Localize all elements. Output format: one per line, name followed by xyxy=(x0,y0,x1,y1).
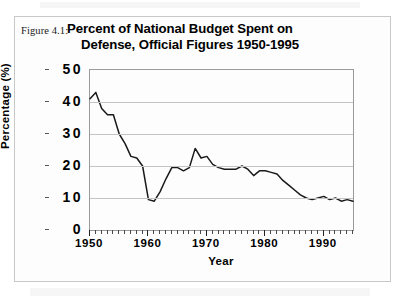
x-tick-minor-1978 xyxy=(253,230,254,234)
data-line xyxy=(90,92,353,201)
x-tick-minor-1971 xyxy=(212,230,213,234)
x-tick-major-1980 xyxy=(264,230,265,236)
x-axis-title: Year xyxy=(89,255,353,267)
scan-artifact-bottom xyxy=(30,288,370,296)
x-tick-major-1990 xyxy=(323,230,324,236)
x-tick-minor-1979 xyxy=(258,230,259,234)
series-line-defense-percentage xyxy=(90,70,353,230)
y-tick-mark-30 xyxy=(45,133,49,134)
x-tick-minor-1975 xyxy=(235,230,236,234)
x-tick-minor-1982 xyxy=(276,230,277,234)
x-tick-minor-1989 xyxy=(317,230,318,234)
x-tick-major-1950 xyxy=(89,230,90,236)
x-tick-minor-1968 xyxy=(194,230,195,234)
x-tick-minor-1952 xyxy=(101,230,102,234)
y-tick-mark-40 xyxy=(45,101,49,102)
x-tick-minor-1973 xyxy=(223,230,224,234)
x-tick-minor-1976 xyxy=(241,230,242,234)
x-tick-minor-1987 xyxy=(305,230,306,234)
y-tick-label-10: 10 xyxy=(49,189,83,205)
y-axis-title: Percentage (%) xyxy=(0,63,11,149)
figure-number-label: Figure 4.1: xyxy=(21,25,68,36)
plot-area xyxy=(89,69,354,231)
x-tick-minor-1983 xyxy=(282,230,283,234)
figure-frame: Figure 4.1: Percent of National Budget S… xyxy=(14,16,391,282)
x-tick-minor-1961 xyxy=(153,230,154,234)
y-tick-mark-50 xyxy=(45,69,49,70)
x-tick-minor-1977 xyxy=(247,230,248,234)
x-tick-label-1970: 1970 xyxy=(184,237,228,249)
x-tick-minor-1993 xyxy=(340,230,341,234)
y-tick-label-40: 40 xyxy=(49,93,83,109)
x-tick-minor-1955 xyxy=(118,230,119,234)
x-axis-tick-marks xyxy=(89,230,353,235)
y-tick-label-0: 0 xyxy=(49,221,83,237)
x-tick-minor-1988 xyxy=(311,230,312,234)
x-tick-major-1960 xyxy=(147,230,148,236)
x-tick-minor-1953 xyxy=(107,230,108,234)
x-tick-minor-1992 xyxy=(334,230,335,234)
x-tick-major-1970 xyxy=(206,230,207,236)
figure-screenshot: { "figure": { "number_label": "Figure 4.… xyxy=(0,0,405,303)
x-tick-minor-1972 xyxy=(218,230,219,234)
x-tick-minor-1967 xyxy=(188,230,189,234)
gridline-y-40 xyxy=(90,102,353,103)
x-tick-minor-1995 xyxy=(352,230,353,234)
y-tick-label-30: 30 xyxy=(49,125,83,141)
x-tick-minor-1969 xyxy=(200,230,201,234)
x-axis-tick-labels: 19501960197019801990 xyxy=(15,237,392,255)
x-tick-minor-1984 xyxy=(288,230,289,234)
x-tick-minor-1965 xyxy=(177,230,178,234)
x-tick-minor-1958 xyxy=(136,230,137,234)
chart-title: Percent of National Budget Spent on Defe… xyxy=(67,21,367,53)
x-tick-label-1990: 1990 xyxy=(301,237,345,249)
x-tick-label-1950: 1950 xyxy=(67,237,111,249)
x-tick-minor-1959 xyxy=(142,230,143,234)
x-tick-label-1960: 1960 xyxy=(125,237,169,249)
gridline-y-30 xyxy=(90,134,353,135)
x-tick-minor-1986 xyxy=(299,230,300,234)
x-tick-minor-1991 xyxy=(329,230,330,234)
x-tick-minor-1957 xyxy=(130,230,131,234)
chart-title-line-2: Defense, Official Figures 1950-1995 xyxy=(81,37,367,53)
x-tick-minor-1964 xyxy=(171,230,172,234)
x-tick-label-1980: 1980 xyxy=(242,237,286,249)
gridline-y-10 xyxy=(90,198,353,199)
x-tick-minor-1981 xyxy=(270,230,271,234)
gridline-y-20 xyxy=(90,166,353,167)
chart-title-line-1: Percent of National Budget Spent on xyxy=(67,21,367,37)
x-tick-minor-1956 xyxy=(124,230,125,234)
x-tick-minor-1954 xyxy=(112,230,113,234)
x-tick-minor-1963 xyxy=(165,230,166,234)
y-tick-mark-10 xyxy=(45,197,49,198)
x-tick-minor-1962 xyxy=(159,230,160,234)
x-tick-minor-1966 xyxy=(183,230,184,234)
x-tick-minor-1951 xyxy=(95,230,96,234)
y-axis-tick-labels: 50403020100 xyxy=(35,69,83,229)
y-tick-label-50: 50 xyxy=(49,61,83,77)
scan-artifact-top xyxy=(40,2,360,8)
y-tick-mark-20 xyxy=(45,165,49,166)
y-tick-label-20: 20 xyxy=(49,157,83,173)
x-tick-minor-1985 xyxy=(294,230,295,234)
x-tick-minor-1994 xyxy=(346,230,347,234)
x-tick-minor-1974 xyxy=(229,230,230,234)
y-tick-mark-0 xyxy=(45,229,49,230)
